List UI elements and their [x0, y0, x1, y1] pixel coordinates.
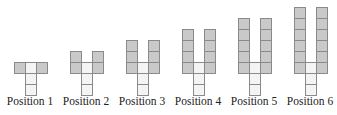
gray-square	[238, 40, 250, 52]
position-pattern-diagram: Position 1 Position 2 Position 3 Positio…	[0, 0, 337, 115]
white-square	[193, 84, 205, 96]
label-position-3: Position 3	[119, 95, 165, 107]
white-square	[81, 84, 93, 96]
gray-square	[92, 51, 104, 63]
gray-square	[260, 51, 272, 63]
gray-square	[260, 40, 272, 52]
gray-square	[316, 7, 328, 19]
gray-square	[204, 40, 216, 52]
gray-square	[238, 29, 250, 41]
gray-square	[182, 51, 194, 63]
gray-square	[316, 40, 328, 52]
gray-square	[36, 62, 48, 74]
gray-square	[238, 18, 250, 30]
gray-square	[70, 51, 82, 63]
label-position-1: Position 1	[7, 95, 53, 107]
gray-square	[260, 29, 272, 41]
gray-square	[204, 29, 216, 41]
gray-square	[204, 62, 216, 74]
gray-square	[204, 51, 216, 63]
label-position-5: Position 5	[231, 95, 277, 107]
gray-square	[148, 40, 160, 52]
gray-square	[294, 40, 306, 52]
gray-square	[294, 51, 306, 63]
gray-square	[260, 18, 272, 30]
white-square	[137, 84, 149, 96]
gray-square	[148, 51, 160, 63]
gray-square	[316, 51, 328, 63]
gray-square	[260, 62, 272, 74]
label-position-4: Position 4	[175, 95, 221, 107]
gray-square	[182, 29, 194, 41]
gray-square	[148, 62, 160, 74]
gray-square	[294, 7, 306, 19]
gray-square	[294, 29, 306, 41]
gray-square	[238, 51, 250, 63]
gray-square	[126, 40, 138, 52]
gray-square	[316, 62, 328, 74]
gray-square	[294, 18, 306, 30]
gray-square	[126, 51, 138, 63]
label-position-2: Position 2	[63, 95, 109, 107]
gray-square	[92, 62, 104, 74]
gray-square	[182, 40, 194, 52]
gray-square	[316, 18, 328, 30]
white-square	[25, 84, 37, 96]
white-square	[249, 84, 261, 96]
white-square	[305, 84, 317, 96]
gray-square	[316, 29, 328, 41]
label-position-6: Position 6	[287, 95, 333, 107]
